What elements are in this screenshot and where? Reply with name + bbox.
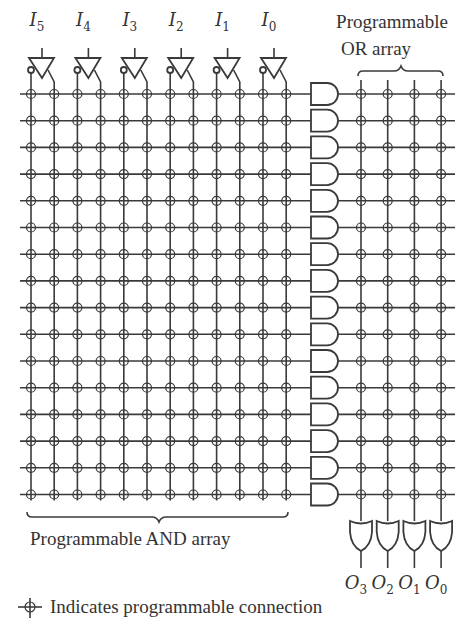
or-gate-0 <box>430 521 452 568</box>
and-array-row <box>20 276 311 285</box>
and-gate <box>311 484 338 506</box>
and-array-row <box>20 330 311 339</box>
and-gate <box>311 243 338 265</box>
and-gate <box>311 217 338 239</box>
or-gate-3 <box>350 521 372 568</box>
input-label-1: I1 <box>214 9 230 34</box>
and-array-row <box>20 490 311 499</box>
and-array-row <box>20 223 311 232</box>
output-label-0: O0 <box>425 572 447 597</box>
and-gate <box>311 136 338 158</box>
and-gate <box>311 110 338 132</box>
and-array-row <box>20 90 311 99</box>
output-label-3: O3 <box>345 572 367 597</box>
or-gates <box>350 521 452 568</box>
programmable-and-array <box>20 90 311 500</box>
legend: Indicates programmable connection <box>18 596 323 618</box>
and-array-row <box>20 303 311 312</box>
or-array-label-line2: OR array <box>341 38 412 59</box>
and-gate <box>311 403 338 425</box>
and-array-row <box>20 116 311 125</box>
legend-text: Indicates programmable connection <box>50 596 323 617</box>
and-gate <box>311 270 338 292</box>
and-gate <box>311 457 338 479</box>
and-gate <box>311 297 338 319</box>
and-array-row <box>20 357 311 366</box>
and-array-row <box>20 437 311 446</box>
input-label-5: I5 <box>29 9 45 34</box>
and-array-row <box>20 383 311 392</box>
and-gate <box>311 430 338 452</box>
and-array-row <box>20 143 311 152</box>
and-gate <box>311 83 338 105</box>
and-array-row <box>20 250 311 259</box>
input-label-0: I0 <box>261 9 277 34</box>
output-label-2: O2 <box>371 572 393 597</box>
and-array-row <box>20 196 311 205</box>
and-gate <box>311 377 338 399</box>
or-gate-2 <box>377 521 399 568</box>
programmable-or-array <box>357 80 446 521</box>
or-gate-1 <box>403 521 425 568</box>
input-label-2: I2 <box>168 9 184 34</box>
and-array-brace <box>27 512 288 522</box>
output-label-1: O1 <box>398 572 420 597</box>
input-label-4: I4 <box>75 9 91 34</box>
and-array-row <box>20 463 311 472</box>
and-array-row <box>20 170 311 179</box>
and-gate <box>311 323 338 345</box>
input-labels: I5I4I3I2I1I0 <box>29 9 277 34</box>
and-gate <box>311 190 338 212</box>
and-gate <box>311 163 338 185</box>
and-array-label: Programmable AND array <box>30 528 231 549</box>
and-array-row <box>20 410 311 419</box>
and-gate <box>311 350 338 372</box>
pla-diagram: I5I4I3I2I1I0 O3O2O1O0 Programmable OR ar… <box>0 0 473 623</box>
input-buffers <box>28 48 286 501</box>
output-labels: O3O2O1O0 <box>345 572 448 597</box>
or-array-label-line1: Programmable <box>336 11 448 32</box>
input-label-3: I3 <box>121 9 137 34</box>
programmable-connection-icon <box>18 598 42 618</box>
or-array-brace <box>358 66 443 76</box>
